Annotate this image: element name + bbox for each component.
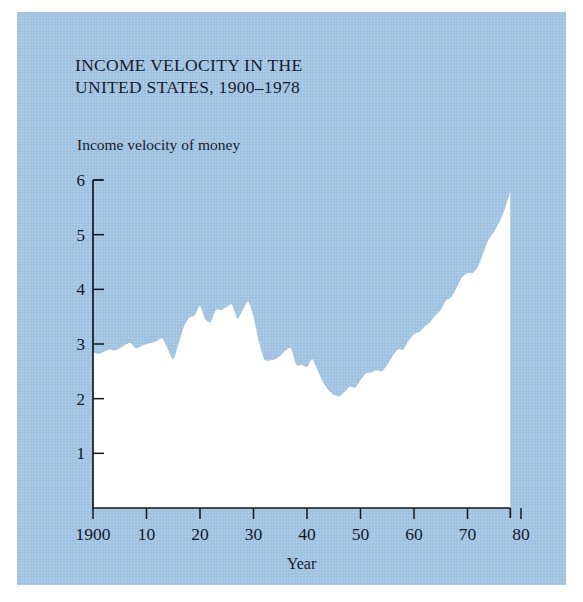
y-axis-tick-label: 4 <box>77 280 86 299</box>
figure-panel: INCOME VELOCITY IN THE UNITED STATES, 19… <box>17 12 566 585</box>
x-axis-tick-label: 30 <box>245 524 263 544</box>
x-axis-tick-label: 60 <box>405 524 423 544</box>
area-series-income-velocity <box>93 192 510 508</box>
x-axis-tick-label: 40 <box>298 524 316 544</box>
y-axis-tick-label: 1 <box>77 444 86 463</box>
y-axis-tick-label: 5 <box>77 226 86 245</box>
y-axis-tick-label: 6 <box>77 171 86 190</box>
x-axis-tick-label: 1900 <box>76 524 111 544</box>
y-axis-caption: Income velocity of money <box>77 136 240 154</box>
y-axis-tick-labels: 123456 <box>77 171 86 463</box>
x-axis-tick-label: 70 <box>459 524 477 544</box>
x-axis-title: Year <box>17 555 566 573</box>
chart-title-line-2: UNITED STATES, 1900–1978 <box>75 76 475 98</box>
x-axis-tick-label: 80 <box>512 524 530 544</box>
y-axis-tick-label: 2 <box>77 390 86 409</box>
x-axis-tick-label: 10 <box>138 524 156 544</box>
x-axis-tick-labels: 19001020304050607080 <box>76 524 531 544</box>
y-axis-tick-label: 3 <box>77 335 86 354</box>
chart-title-line-1: INCOME VELOCITY IN THE <box>75 54 475 76</box>
chart-title: INCOME VELOCITY IN THE UNITED STATES, 19… <box>75 54 475 98</box>
x-axis-ticks <box>93 508 521 519</box>
x-axis-tick-label: 50 <box>352 524 370 544</box>
x-axis-title-text: Year <box>287 555 316 572</box>
x-axis-tick-label: 20 <box>191 524 209 544</box>
